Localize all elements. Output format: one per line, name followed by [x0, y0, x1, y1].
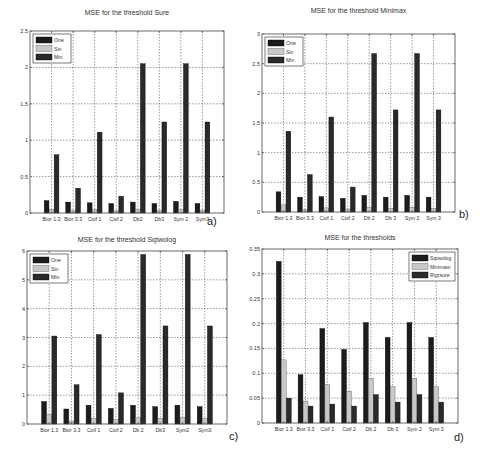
legend-label: One [286, 40, 296, 46]
bar-one [152, 204, 157, 213]
bar-one [66, 202, 71, 213]
chart-panel-d: MSE for the thresholds 00.050.10.150.20.… [249, 234, 464, 443]
x-tick-label: Coif 2 [109, 216, 123, 222]
bar-rigrsure [417, 395, 422, 423]
x-tick-label: Db 3 [387, 426, 398, 432]
y-tick-label: 2.5 [252, 61, 260, 67]
bar-minimaxi [390, 387, 395, 423]
y-tick-label: 6 [22, 248, 25, 254]
x-tick-label: Db 3 [385, 215, 396, 221]
bar-one [340, 198, 345, 212]
x-tick-label: Coif 2 [342, 426, 356, 432]
bar-minimaxi [347, 391, 352, 423]
x-tick-label: Sym 2 [174, 216, 189, 222]
bar-one [130, 202, 135, 213]
x-tick-label: Coif 2 [341, 215, 355, 221]
bar-one [298, 197, 303, 212]
y-tick-label: 0 [257, 209, 260, 215]
bar-one [195, 204, 200, 213]
y-tick-label: 1.5 [252, 120, 260, 126]
x-tick-label: Bior 1.3 [274, 215, 292, 221]
y-tick-label: 4 [22, 306, 25, 312]
x-tick-label: Coif 1 [320, 215, 334, 221]
legend: SqtwologMinimaxiRigrsure [409, 252, 455, 281]
bar-min [307, 175, 312, 212]
bar-min [185, 254, 190, 424]
y-tick-label: 2 [25, 64, 28, 70]
bar-group [276, 261, 443, 423]
legend-label: Sin [286, 49, 294, 55]
bar-min [52, 336, 57, 424]
bar-one [319, 197, 324, 212]
bar-minimaxi [303, 401, 308, 423]
y-tick-label: 0.25 [249, 296, 260, 302]
bar-rigrsure [352, 406, 357, 423]
bar-one [87, 203, 92, 213]
y-tick-label: 2 [257, 90, 260, 96]
x-tick-label: Coif 1 [88, 216, 102, 222]
x-tick-label: Bior 3.3 [62, 427, 80, 433]
bar-group [276, 54, 441, 212]
bar-minimaxi [368, 378, 373, 423]
x-tick-label: Sym 2 [405, 215, 420, 221]
bar-min [54, 155, 59, 213]
x-tick-label: Sym 2 [407, 426, 422, 432]
y-tick-label: 0.3 [252, 271, 260, 277]
x-tick-label: Db3 [156, 427, 166, 433]
bar-one [42, 402, 47, 424]
y-tick-label: 3 [257, 31, 260, 37]
x-tick-label: Bior 1.3 [43, 216, 61, 222]
bar-one [174, 201, 179, 213]
x-tick-label: Coif 2 [109, 427, 123, 433]
bar-rigrsure [439, 402, 444, 423]
x-tick-label: Bior 3.3 [296, 215, 314, 221]
bar-sqtwolog [320, 329, 325, 423]
figure-canvas: MSE for the threshold Sure 00.511.522.5 … [0, 0, 482, 458]
bar-sqtwolog [363, 323, 368, 423]
bar-one [64, 409, 69, 424]
legend-swatch [412, 255, 428, 261]
bar-one [153, 407, 158, 424]
bar-min [162, 122, 167, 213]
legend-label: Sqtwolog [430, 255, 451, 261]
y-tick-label: 0.5 [20, 174, 28, 180]
bar-min [140, 64, 145, 213]
bar-one [426, 197, 431, 212]
x-tick-label: Sym3 [198, 427, 211, 433]
y-tick-label: 3 [22, 335, 25, 341]
chart-title: MSE for the thresholds [324, 234, 396, 241]
y-tick-label: 5 [22, 277, 25, 283]
bar-one [383, 197, 388, 212]
bar-min [393, 110, 398, 212]
bar-minimaxi [412, 378, 417, 423]
bar-min [97, 132, 102, 213]
bar-min [205, 122, 210, 213]
bar-one [276, 192, 281, 212]
bar-min [350, 187, 355, 212]
bar-min [141, 254, 146, 424]
y-tick-label: 1 [257, 150, 260, 156]
legend: OneSinMin [265, 37, 303, 66]
y-tick-label: 1 [22, 392, 25, 398]
figure: MSE for the threshold Sure 00.511.522.5 … [0, 0, 482, 458]
bar-minimaxi [434, 387, 439, 423]
bar-sqtwolog [407, 323, 412, 423]
x-tick-label: Db3 [155, 216, 165, 222]
chart-panel-c: MSE for the threshold Sqtwolog 0123456 B… [22, 236, 238, 442]
legend: OneSinMin [33, 34, 71, 63]
bar-min [372, 54, 377, 212]
x-tick-label: Sym2 [176, 427, 189, 433]
x-tick-label: Bior 1.3 [275, 426, 293, 432]
bar-rigrsure [330, 404, 335, 423]
legend-swatch [268, 57, 284, 63]
bar-min [119, 393, 124, 424]
bar-sqtwolog [276, 261, 281, 423]
legend-label: Minimaxi [430, 264, 450, 270]
bar-one [109, 204, 114, 213]
bar-min [119, 196, 124, 213]
chart-title: MSE for the threshold Sqtwolog [78, 236, 177, 244]
x-tick-label: Bior 3.3 [297, 426, 315, 432]
bar-one [197, 407, 202, 424]
y-tick-label: 0.15 [249, 345, 260, 351]
x-tick-label: Db2 [133, 216, 143, 222]
